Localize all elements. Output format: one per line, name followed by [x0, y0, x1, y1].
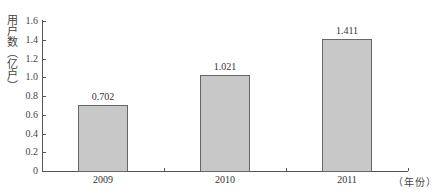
- y-tick-mark: [42, 96, 46, 97]
- x-tick-mark: [164, 168, 165, 171]
- bar-value-label: 1.021: [195, 61, 255, 72]
- y-tick-mark: [42, 40, 46, 41]
- y-tick-label: 1.0: [8, 71, 38, 82]
- x-category-label: 2009: [73, 174, 133, 185]
- y-tick-mark: [42, 152, 46, 153]
- y-tick-mark: [42, 59, 46, 60]
- y-tick-label: 0.2: [8, 146, 38, 157]
- y-tick-label: 0.8: [8, 90, 38, 101]
- bar-2011: [322, 39, 372, 172]
- bar-chart: 用户数（亿户） 00.20.40.60.81.01.21.41.6 0.7022…: [0, 0, 439, 195]
- bar-value-label: 1.411: [317, 25, 377, 36]
- x-tick-mark: [286, 168, 287, 171]
- y-tick-mark: [42, 115, 46, 116]
- bar-2010: [200, 75, 250, 172]
- y-tick-mark: [42, 21, 46, 22]
- x-category-label: 2011: [317, 174, 377, 185]
- y-tick-label: 0.4: [8, 128, 38, 139]
- x-axis-title: （年份）: [393, 174, 437, 189]
- y-tick-label: 1.2: [8, 53, 38, 64]
- y-tick-label: 1.6: [8, 15, 38, 26]
- bar-2009: [78, 105, 128, 172]
- bar-value-label: 0.702: [73, 91, 133, 102]
- x-tick-mark: [408, 168, 409, 171]
- x-category-label: 2010: [195, 174, 255, 185]
- y-tick-mark: [42, 134, 46, 135]
- y-tick-mark: [42, 77, 46, 78]
- y-tick-label: 1.4: [8, 34, 38, 45]
- y-tick-label: 0.6: [8, 109, 38, 120]
- y-tick-label: 0: [8, 165, 38, 176]
